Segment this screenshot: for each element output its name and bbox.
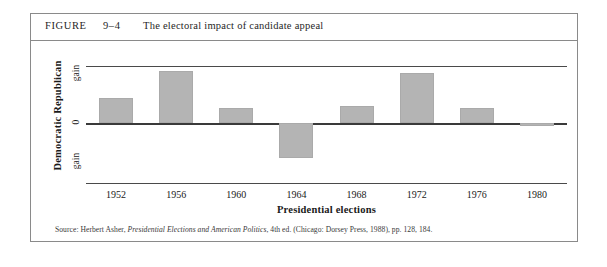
bar-1968 <box>340 106 374 123</box>
y-axis-title-text: Democratic Republican <box>52 60 63 170</box>
x-tick-1952: 1952 <box>106 189 126 200</box>
upper-boundary-line <box>86 66 567 67</box>
y-axis-label-zero: 0 <box>69 115 83 129</box>
figure-container: FIGURE 9–4 The electoral impact of candi… <box>30 13 578 242</box>
source-suffix: , 4th ed. (Chicago: Dorsey Press, 1988),… <box>266 225 432 234</box>
bar-1972 <box>400 73 434 123</box>
chart-plot-area <box>86 41 567 187</box>
bar-1952 <box>99 98 133 123</box>
figure-header: FIGURE 9–4 The electoral impact of candi… <box>31 14 577 40</box>
x-axis-tick-row: 19521956196019641968197219761980 <box>86 187 567 203</box>
figure-title: The electoral impact of candidate appeal <box>143 20 324 31</box>
x-tick-1968: 1968 <box>347 189 367 200</box>
x-tick-1960: 1960 <box>226 189 246 200</box>
y-axis-label-top-text: gain <box>71 65 81 81</box>
x-tick-1972: 1972 <box>407 189 427 200</box>
x-tick-1976: 1976 <box>467 189 487 200</box>
bar-1976 <box>460 108 494 123</box>
y-axis-label-zero-text: 0 <box>71 120 81 125</box>
figure-number: 9–4 <box>103 20 121 31</box>
x-tick-1964: 1964 <box>286 189 306 200</box>
y-axis-title: Democratic Republican <box>49 49 65 181</box>
lower-boundary-line <box>86 183 567 184</box>
y-axis-label-democratic-gain: gain <box>69 137 83 185</box>
plot-region: Democratic Republican gain 0 gain 195219… <box>31 41 577 243</box>
bar-1956 <box>159 71 193 123</box>
zero-baseline <box>86 123 567 125</box>
bar-1964 <box>279 123 313 158</box>
source-prefix: Source: Herbert Asher, <box>55 225 128 234</box>
x-tick-1980: 1980 <box>527 189 547 200</box>
y-axis-label-bottom-text: gain <box>71 153 81 169</box>
figure-label: FIGURE <box>45 20 87 31</box>
y-axis-label-republican-gain: gain <box>69 49 83 97</box>
source-note: Source: Herbert Asher, Presidential Elec… <box>55 225 563 234</box>
source-title: Presidential Elections and American Poli… <box>128 225 267 234</box>
bar-1980 <box>520 123 554 126</box>
x-axis-title: Presidential elections <box>86 204 567 215</box>
x-tick-1956: 1956 <box>166 189 186 200</box>
bar-1960 <box>219 108 253 123</box>
